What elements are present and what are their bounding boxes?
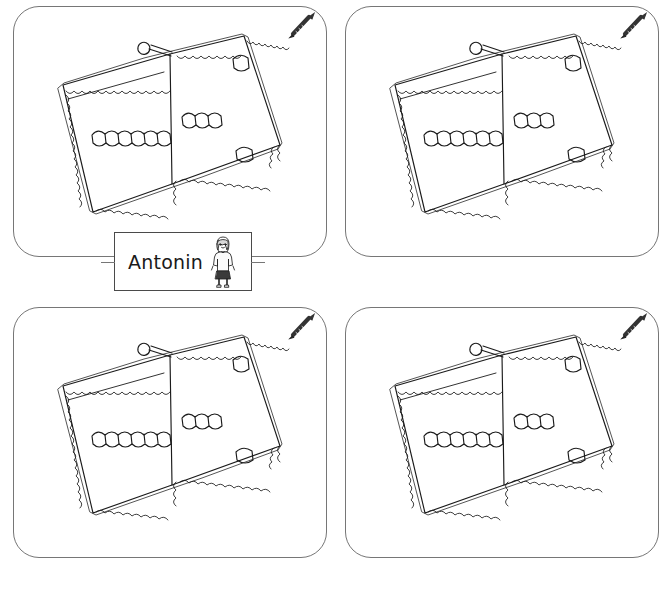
name-card[interactable]: Antonin: [13, 6, 327, 257]
worksheet-page: Antonin: [0, 0, 663, 594]
label-seam-right: [251, 262, 265, 263]
girl-figure-icon: [206, 235, 240, 288]
name-card[interactable]: Max: [345, 307, 659, 558]
student-name: Antonin: [128, 251, 203, 273]
name-label[interactable]: Antonin: [114, 232, 252, 291]
open-notebook-icon: [52, 326, 290, 526]
open-notebook-icon: [384, 25, 622, 225]
open-notebook-icon: [384, 326, 622, 526]
name-card[interactable]: Paula: [345, 6, 659, 257]
open-notebook-icon: [52, 25, 290, 225]
name-card[interactable]: Daniel: [13, 307, 327, 558]
label-seam-left: [101, 262, 115, 263]
